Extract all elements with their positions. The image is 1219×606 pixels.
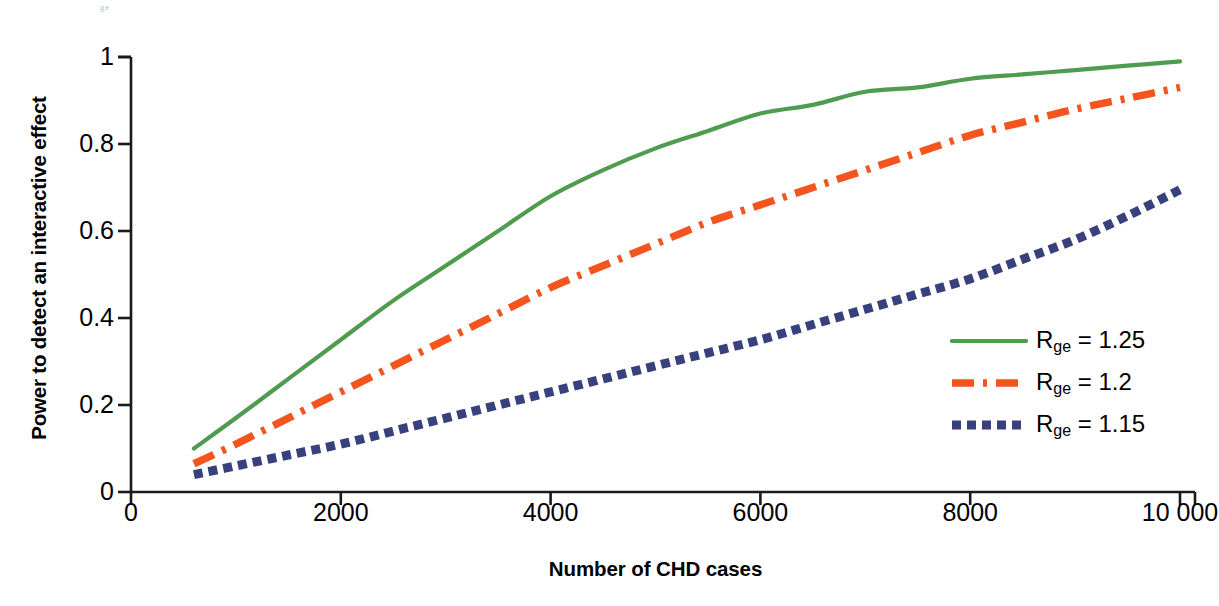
- legend-item-rge-12[interactable]: Rge = 1.2: [950, 362, 1210, 404]
- x-tick-label: 0: [51, 500, 211, 525]
- power-curve-figure: ge Power to detect an interactive effect…: [0, 0, 1219, 606]
- chart-legend: Rge = 1.25Rge = 1.2Rge = 1.15: [950, 320, 1210, 446]
- x-tick-label: 6000: [680, 500, 840, 525]
- legend-label: Rge = 1.2: [1028, 368, 1132, 398]
- legend-item-rge-125[interactable]: Rge = 1.25: [950, 320, 1210, 362]
- y-axis-ticks: [118, 57, 131, 492]
- legend-swatch-icon: [950, 330, 1028, 352]
- y-tick-label: 0.6: [54, 218, 114, 243]
- y-tick-label: 1: [54, 44, 114, 69]
- y-tick-label: 0.2: [54, 392, 114, 417]
- legend-swatch-icon: [950, 414, 1028, 436]
- legend-label: Rge = 1.25: [1028, 326, 1145, 356]
- legend-label: Rge = 1.15: [1028, 410, 1145, 440]
- x-tick-label: 4000: [471, 500, 631, 525]
- y-tick-label: 0.4: [54, 305, 114, 330]
- x-tick-label: 8000: [890, 500, 1050, 525]
- legend-item-rge-115[interactable]: Rge = 1.15: [950, 404, 1210, 446]
- x-tick-label: 2000: [261, 500, 421, 525]
- y-tick-label: 0.8: [54, 131, 114, 156]
- x-tick-label: 10 000: [1100, 500, 1219, 525]
- legend-swatch-icon: [950, 372, 1028, 394]
